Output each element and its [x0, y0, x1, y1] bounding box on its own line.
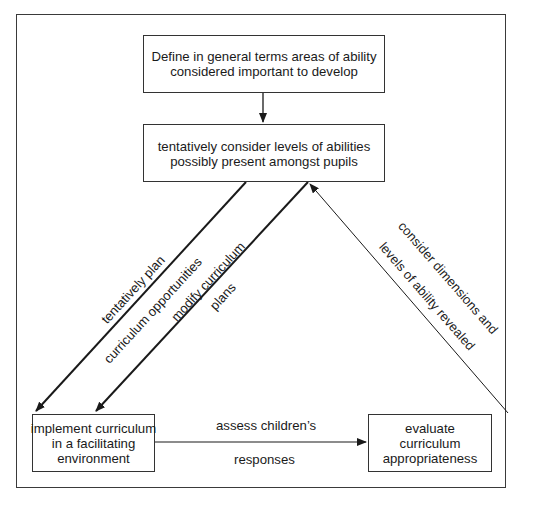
box-evaluate-curriculum: evaluate curriculum appropriateness [368, 414, 492, 472]
box-evaluate-line2: curriculum [400, 436, 461, 451]
box-implement-line2: in a facilitating [52, 436, 136, 451]
box-evaluate-line3: appropriateness [383, 451, 478, 466]
box-evaluate-line1: evaluate [405, 421, 455, 436]
box-implement-curriculum: implement curriculum in a facilitating e… [32, 414, 155, 472]
box-consider-levels: tentatively consider levels of abilities… [143, 124, 385, 182]
box-implement-line1: implement curriculum [31, 421, 156, 436]
box-consider-line2: possibly present amongst pupils [170, 154, 358, 169]
box-define-line2: considered important to develop [170, 64, 358, 79]
box-consider-line1: tentatively consider levels of abilities [158, 139, 371, 154]
box-define-abilities: Define in general terms areas of ability… [143, 35, 385, 93]
edge-label-assess-line2: responses [234, 452, 295, 467]
edge-label-assess-line1: assess children’s [216, 418, 316, 433]
box-define-line1: Define in general terms areas of ability [151, 49, 376, 64]
arrow-reveal [310, 184, 508, 413]
box-implement-line3: environment [57, 451, 130, 466]
